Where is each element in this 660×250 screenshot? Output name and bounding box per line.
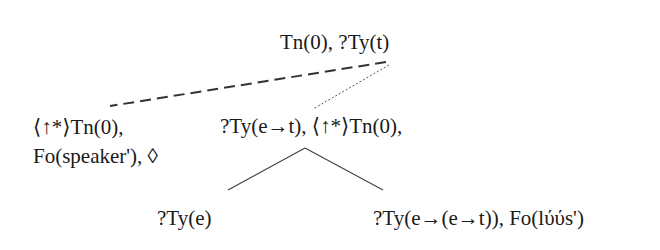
edge-middle-bottomleft-solid bbox=[228, 148, 305, 190]
node-middle-line-1: ?Ty(e→t), ⟨↑*⟩Tn(0), bbox=[220, 113, 402, 140]
node-left-line-1: ⟨↑*⟩Tn(0), bbox=[33, 113, 158, 142]
node-bottom-right-line-1: ?Ty(e→(e→t)), Fo(lύύs') bbox=[373, 205, 584, 232]
node-root-line-1: Tn(0), ?Ty(t) bbox=[280, 29, 389, 56]
node-bottom-right: ?Ty(e→(e→t)), Fo(lύύs') bbox=[373, 205, 584, 232]
node-middle: ?Ty(e→t), ⟨↑*⟩Tn(0), bbox=[220, 113, 402, 140]
edge-root-left-dashed bbox=[110, 62, 386, 106]
edge-middle-bottomright-solid bbox=[305, 148, 383, 190]
node-left: ⟨↑*⟩Tn(0), Fo(speaker'), ◊ bbox=[33, 113, 158, 171]
node-root: Tn(0), ?Ty(t) bbox=[280, 29, 389, 56]
tree-diagram: Tn(0), ?Ty(t) ⟨↑*⟩Tn(0), Fo(speaker'), ◊… bbox=[0, 0, 660, 250]
node-bottom-left-line-1: ?Ty(e) bbox=[157, 205, 212, 232]
node-bottom-left: ?Ty(e) bbox=[157, 205, 212, 232]
edge-root-middle-dotted bbox=[313, 65, 389, 109]
node-left-line-2: Fo(speaker'), ◊ bbox=[33, 142, 158, 171]
